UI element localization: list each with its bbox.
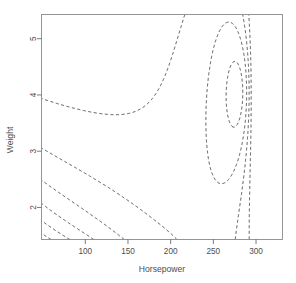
- y-axis-ticks: 2345: [29, 36, 42, 210]
- y-tick-label: 5: [29, 36, 38, 41]
- contour-line: [42, 233, 52, 239]
- x-tick-label: 300: [249, 247, 263, 256]
- x-tick-label: 150: [121, 247, 135, 256]
- contour-line: [235, 15, 249, 240]
- contour-plot-canvas: 100150200250300 2345 Horsepower Weight: [0, 0, 296, 283]
- x-axis-ticks: 100150200250300: [78, 240, 263, 256]
- x-tick-label: 200: [164, 247, 178, 256]
- contour-line: [249, 15, 251, 240]
- x-tick-label: 250: [207, 247, 221, 256]
- y-tick-label: 2: [29, 205, 38, 210]
- contour-plot-figure: 100150200250300 2345 Horsepower Weight: [0, 0, 296, 283]
- contour-line: [42, 148, 178, 240]
- contour-line: [206, 22, 247, 184]
- y-tick-label: 3: [29, 148, 38, 153]
- x-axis-title: Horsepower: [139, 264, 185, 274]
- y-tick-label: 4: [29, 92, 38, 97]
- contour-line: [42, 203, 94, 239]
- x-tick-label: 100: [78, 247, 92, 256]
- contour-lines-group: [42, 15, 252, 240]
- contour-line: [42, 180, 125, 239]
- contour-line: [42, 15, 185, 115]
- y-axis-title: Weight: [5, 126, 15, 153]
- contour-line: [226, 61, 243, 127]
- contour-line: [42, 221, 70, 240]
